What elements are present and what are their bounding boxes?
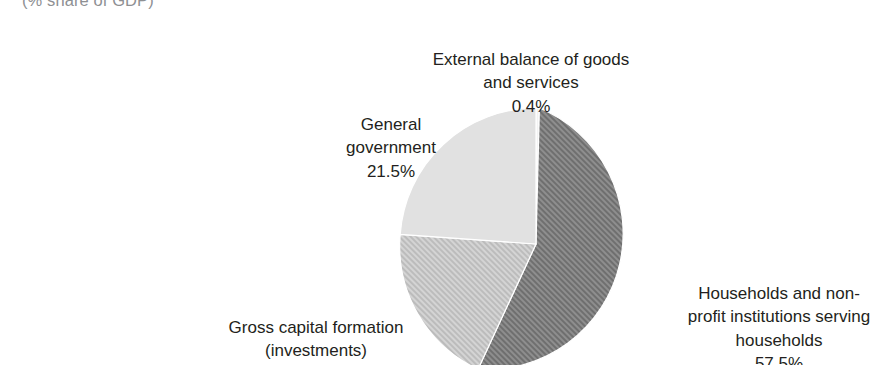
pie-label-general-government-value: 21.5% <box>296 160 486 184</box>
pie-label-general-government: General government21.5% <box>296 89 486 207</box>
pie-label-external-balance-text: External balance of goods and services <box>433 50 630 93</box>
chart-canvas: (% share of GDP) Exte <box>0 0 886 365</box>
pie-label-gross-capital-formation: Gross capital formation (investments)20.… <box>196 292 436 365</box>
pie-label-general-government-text: General government <box>346 115 436 158</box>
pie-label-gross-capital-formation-text: Gross capital formation (investments) <box>229 318 404 361</box>
pie-label-households-text: Households and non- profit institutions … <box>688 284 870 350</box>
pie-label-households-value: 57.5% <box>672 352 886 365</box>
pie-label-households: Households and non- profit institutions … <box>672 258 886 365</box>
